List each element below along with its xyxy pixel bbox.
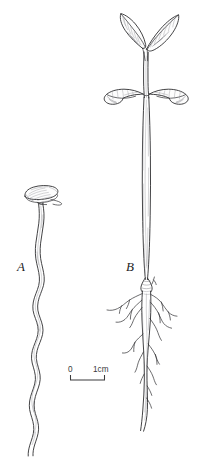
scale-bar-start-label: 0 [68,365,73,374]
seedling-illustration: A [0,0,205,460]
figure-background [0,0,205,460]
panel-label-a: A [16,259,25,274]
panel-label-b: B [126,259,134,274]
figure-canvas: A [0,0,205,460]
scale-bar-end-label: 1cm [93,365,109,374]
